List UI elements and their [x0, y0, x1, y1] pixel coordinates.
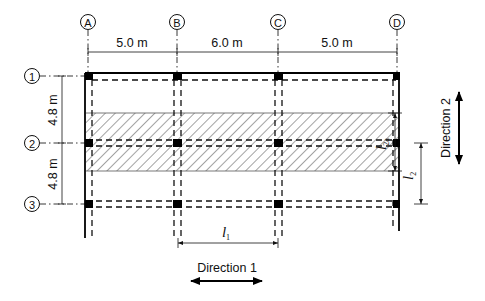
floor-plan-svg: A B C D 1 2 3 5.0 m 6.0 m 5.0 m 4.8 m 4 — [0, 0, 485, 301]
row-bubbles: 1 2 3 — [25, 69, 40, 212]
column-d1 — [393, 72, 400, 80]
bubble-a-label: A — [84, 17, 92, 29]
bubble-1-label: 1 — [29, 71, 35, 83]
column-bubbles: A B C D — [81, 15, 405, 30]
bubble-a: A — [81, 15, 96, 30]
bubble-3-label: 3 — [29, 199, 35, 211]
bubble-b: B — [170, 15, 185, 30]
span-cd-label: 5.0 m — [321, 36, 352, 50]
l1-label: l1 — [222, 224, 230, 242]
bubble-c-label: C — [274, 17, 282, 29]
top-dimension: 5.0 m 6.0 m 5.0 m — [88, 36, 397, 56]
bubble-d: D — [390, 15, 405, 30]
span-ab-label: 5.0 m — [116, 36, 147, 50]
bubble-3: 3 — [25, 197, 40, 212]
column-b2 — [173, 139, 182, 147]
hatched-design-strip — [86, 113, 399, 171]
column-c3 — [274, 200, 283, 208]
column-c2 — [274, 139, 283, 147]
left-dimension: 4.8 m 4.8 m — [46, 76, 66, 204]
span-bc-label: 6.0 m — [211, 36, 242, 50]
column-c1 — [274, 72, 283, 80]
direction-1-indicator: Direction 1 — [191, 261, 262, 281]
bubble-c: C — [271, 15, 286, 30]
bubble-b-label: B — [173, 17, 180, 29]
bubble-2: 2 — [25, 136, 40, 151]
bubble-2-label: 2 — [29, 138, 35, 150]
direction-1-label: Direction 1 — [197, 261, 257, 275]
floor-plan-diagram: A B C D 1 2 3 5.0 m 6.0 m 5.0 m 4.8 m 4 — [0, 0, 485, 301]
column-d3 — [393, 200, 400, 208]
l2-dimension: l2 — [400, 143, 428, 204]
direction-2-indicator: Direction 2 — [439, 92, 459, 164]
column-a1 — [85, 72, 93, 80]
direction-2-label: Direction 2 — [439, 98, 453, 158]
column-a2 — [85, 139, 93, 147]
column-b3 — [173, 200, 182, 208]
column-d2 — [393, 139, 400, 147]
bubble-d-label: D — [393, 17, 401, 29]
span-23-label: 4.8 m — [46, 158, 60, 189]
l1-dimension: l1 — [178, 224, 278, 248]
span-12-label: 4.8 m — [46, 94, 60, 125]
column-b1 — [173, 72, 182, 80]
l2-label: l2 — [400, 172, 418, 180]
bubble-1: 1 — [25, 69, 40, 84]
column-a3 — [85, 200, 93, 208]
